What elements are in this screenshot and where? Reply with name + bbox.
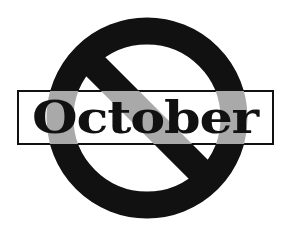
banner-word: October <box>32 92 260 143</box>
no-october-illustration: October <box>0 0 288 235</box>
